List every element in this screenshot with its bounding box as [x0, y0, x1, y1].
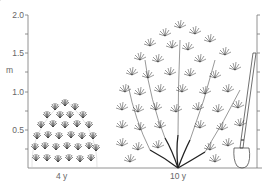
illustration — [0, 0, 270, 190]
shrub-10-years — [0, 0, 246, 168]
spade-icon — [234, 53, 256, 168]
right-axis — [257, 15, 260, 168]
left-axis — [25, 15, 28, 168]
shrub-4-years — [0, 0, 100, 167]
